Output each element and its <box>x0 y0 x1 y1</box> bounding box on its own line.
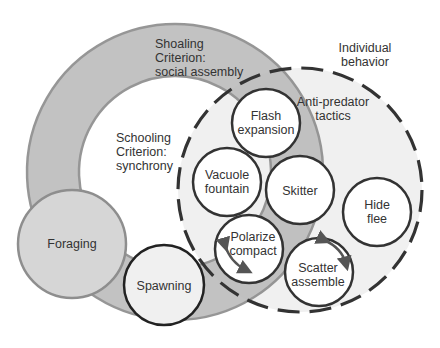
spawning-label: Spawning <box>137 279 192 293</box>
flash-label-2: expansion <box>238 123 295 137</box>
shoaling-label-2: Criterion: <box>155 51 206 65</box>
vacuole-label-1: Vacuole <box>205 168 249 182</box>
schooling-label-1: Schooling <box>116 131 171 145</box>
skitter-label: Skitter <box>282 184 317 198</box>
behavior-diagram: Shoaling Criterion: social assembly Scho… <box>0 0 440 348</box>
scatter-label-2: assemble <box>291 275 345 289</box>
antipredator-label-2: tactics <box>315 109 350 123</box>
shoaling-label-3: social assembly <box>155 65 244 79</box>
individual-label-2: behavior <box>341 55 389 69</box>
vacuole-label-2: fountain <box>205 182 250 196</box>
hide-label-2: flee <box>367 212 387 226</box>
shoaling-label-1: Shoaling <box>155 37 204 51</box>
individual-label-1: Individual <box>339 41 392 55</box>
scatter-label-1: Scatter <box>298 261 338 275</box>
polarize-label-1: Polarize <box>230 230 275 244</box>
hide-label-1: Hide <box>364 198 390 212</box>
foraging-label: Foraging <box>47 237 96 251</box>
schooling-label-2: Criterion: <box>116 145 167 159</box>
polarize-label-2: compact <box>229 244 277 258</box>
antipredator-label-1: Anti-predator <box>297 95 369 109</box>
flash-label-1: Flash <box>251 109 282 123</box>
schooling-label-3: synchrony <box>116 159 174 173</box>
